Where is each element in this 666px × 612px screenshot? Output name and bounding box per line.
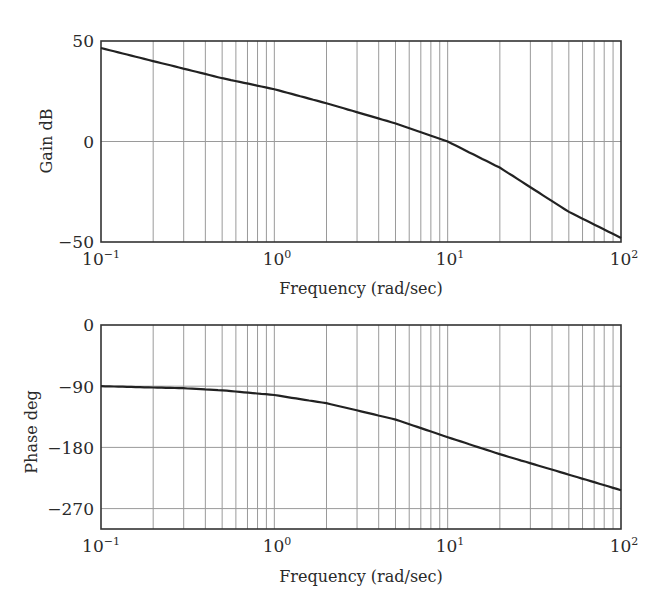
phase-xtick-3: 102 [610,535,639,556]
gain-ylabel: Gain dB [37,109,56,174]
gain-xtick-2: 101 [436,248,465,269]
gain-curve [101,48,621,238]
phase-grid [101,325,621,529]
gain-xtick-3: 102 [610,248,639,269]
phase-plot: 0 −90 −180 −270 Phase deg 10−1 100 101 1… [22,315,638,586]
gain-ytick-50: 50 [72,31,94,51]
gain-xtick-0: 10−1 [82,248,120,269]
phase-ytick-minus180: −180 [47,438,94,458]
phase-xtick-0: 10−1 [82,535,120,556]
gain-plot: 50 0 −50 Gain dB 10−1 100 101 102 Freque… [37,31,638,298]
gain-xtick-1: 100 [263,248,292,269]
phase-xlabel: Frequency (rad/sec) [279,567,443,586]
phase-ytick-0: 0 [83,315,94,335]
gain-xlabel: Frequency (rad/sec) [279,279,443,298]
gain-xticks: 10−1 100 101 102 [82,248,638,269]
phase-ylabel: Phase deg [22,390,41,473]
gain-grid [101,41,621,242]
phase-ytick-minus270: −270 [47,499,94,519]
gain-ytick-0: 0 [83,132,94,152]
bode-plot: 50 0 −50 Gain dB 10−1 100 101 102 Freque… [0,0,666,612]
phase-ytick-minus90: −90 [58,377,94,397]
phase-curve [101,386,621,490]
phase-xtick-2: 101 [436,535,465,556]
phase-plot-frame [101,325,621,529]
phase-xtick-1: 100 [263,535,292,556]
phase-xticks: 10−1 100 101 102 [82,535,638,556]
